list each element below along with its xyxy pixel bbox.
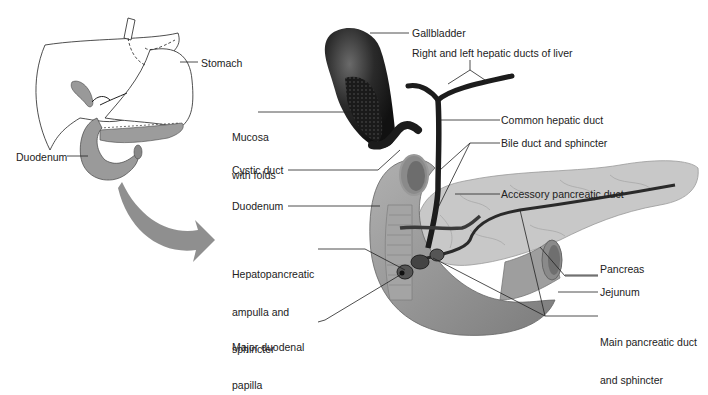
label-gallbladder: Gallbladder <box>412 27 466 40</box>
label-papilla-line2: papilla <box>232 379 304 392</box>
label-common-hepatic-duct: Common hepatic duct <box>501 114 603 127</box>
label-bile-duct: Bile duct and sphincter <box>501 137 607 150</box>
label-stomach: Stomach <box>201 57 242 70</box>
label-mucosa-line1: Mucosa <box>232 131 276 144</box>
label-jejunum: Jejunum <box>600 286 640 299</box>
label-accessory-pancreatic-duct: Accessory pancreatic duct <box>501 188 624 201</box>
label-papilla-line1: Major duodenal <box>232 341 304 354</box>
label-cystic-duct: Cystic duct <box>232 164 283 177</box>
label-pancreas: Pancreas <box>600 263 644 276</box>
label-duodenum-inset: Duodenum <box>16 151 67 164</box>
label-main-pancreatic-duct: Main pancreatic duct and sphincter <box>600 311 697 395</box>
label-mucosa: Mucosa with folds <box>232 106 276 194</box>
label-major-duodenal-papilla: Major duodenal papilla <box>232 316 304 395</box>
label-ampulla-line1: Hepatopancreatic <box>232 268 314 281</box>
label-main-pancreatic-duct-line2: and sphincter <box>600 374 697 387</box>
arrow-icon <box>118 182 215 262</box>
label-duodenum-main: Duodenum <box>232 200 283 213</box>
label-main-pancreatic-duct-line1: Main pancreatic duct <box>600 336 697 349</box>
label-hepatic-ducts: Right and left hepatic ducts of liver <box>412 47 573 60</box>
